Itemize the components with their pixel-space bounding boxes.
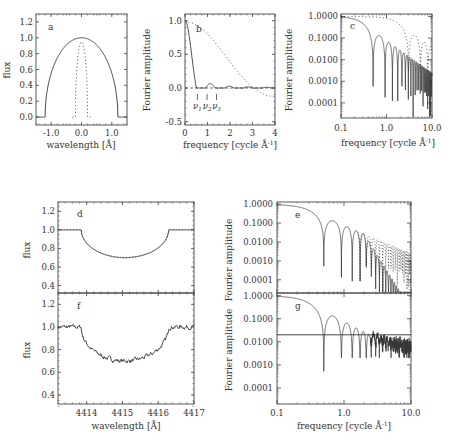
panel-b-y-tick-label: -0.5 [166, 117, 182, 127]
panel-b-y-tick-label: 0.5 [168, 49, 182, 59]
panel-c-broad-transform [341, 17, 432, 117]
panel-f-xlabel: wavelength [Å] [91, 420, 160, 431]
panel-e-letter: e [295, 210, 300, 220]
panel-c-xlabel: frequency [cycle Å-1] [341, 137, 435, 149]
panel-a-ylabel: flux [2, 62, 12, 79]
panel-c-ylabel: Fourier amplitude [284, 29, 294, 112]
panel-a-x-tick-label: 1.0 [105, 128, 119, 138]
panel-a-y-tick-label: 0.4 [19, 80, 33, 90]
panel-f-y-tick-label: 0.8 [41, 345, 55, 355]
panel-b-y-tick-label: 0.0 [168, 83, 182, 93]
panel-g-y-tick-label: 0.1000 [243, 314, 273, 324]
panel-f-x-tick-label: 4417 [183, 408, 205, 418]
panel-f-y-tick-label: 0.6 [41, 367, 55, 377]
panel-e-ylabel: Fourier amplitude [224, 219, 234, 302]
panel-d-model-profile [58, 230, 194, 258]
panel-f-x-tick-label: 4415 [112, 408, 134, 418]
panel-f-x-tick-label: 4414 [76, 408, 98, 418]
panel-c-letter: c [350, 21, 355, 31]
panel-a-broad-profile [36, 38, 127, 117]
panel-e-y-tick-label: 0.0010 [243, 256, 273, 266]
panel-d-ylabel: flux [22, 242, 32, 259]
panel-e-y-tick-label: 0.0100 [243, 237, 273, 247]
panel-a-narrow-profile [72, 42, 90, 117]
panel-g-y-tick-label: 0.0100 [243, 337, 273, 347]
panel-g-y-tick-label: 0.0001 [243, 383, 273, 393]
panel-d-y-tick-label: 1.2 [41, 206, 55, 216]
panel-b-x-tick-label: 3 [250, 128, 255, 138]
panel-c-x-tick-label: 10.0 [423, 123, 442, 133]
panel-c-y-tick-label: 0.0001 [308, 98, 338, 108]
panel-b-y-tick-label: 1.0 [168, 16, 182, 26]
panel-g-x-tick-label: 0.1 [270, 408, 284, 418]
figure-canvas: -1.00.01.00.00.20.40.60.81.01.2wavelengt… [0, 0, 449, 440]
panel-b-letter: b [196, 24, 202, 34]
panel-b-x-tick-label: 1 [205, 128, 210, 138]
panel-c-y-tick-label: 0.0010 [308, 76, 338, 86]
panel-c-y-tick-label: 0.1000 [308, 33, 338, 43]
panel-e-y-tick-label: 0.1000 [243, 218, 273, 228]
panel-a-letter: a [48, 22, 54, 32]
panel-a-xlabel: wavelength [Å] [46, 139, 115, 150]
panel-g-xlabel: frequency [cycle Å-1] [297, 420, 391, 432]
panel-d-y-tick-label: 1.0 [41, 225, 55, 235]
panel-a-x-tick-label: 0.0 [75, 128, 89, 138]
panel-d-y-tick-label: 0.4 [41, 281, 55, 291]
panel-g-y-tick-label: 1.0000 [243, 291, 273, 301]
panel-d-letter: d [77, 209, 83, 219]
panel-e-y-tick-label: 0.0001 [243, 275, 273, 285]
panel-a-y-tick-label: 0.2 [19, 96, 33, 106]
panel-c-x-tick-label: 1.0 [380, 123, 394, 133]
panel-b-xlabel: frequency [cycle Å-1] [183, 139, 277, 151]
panel-a-y-tick-label: 0.0 [19, 112, 33, 122]
panel-g-y-tick-label: 0.0010 [243, 360, 273, 370]
panel-a-y-tick-label: 1.2 [19, 17, 33, 27]
panel-f-y-tick-label: 1.2 [41, 299, 55, 309]
panel-f-letter: f [77, 301, 81, 311]
panel-g-x-tick-label: 1.0 [337, 408, 351, 418]
panel-f-noisy-profile [58, 324, 194, 363]
panel-e-y-tick-label: 1.0000 [243, 199, 273, 209]
panel-g-x-tick-label: 10.0 [402, 408, 421, 418]
panel-f-ylabel: flux [22, 342, 32, 359]
panel-f-y-tick-label: 0.4 [41, 390, 55, 400]
panel-d-y-tick-label: 0.8 [41, 243, 55, 253]
panel-d-y-tick-label: 0.6 [41, 262, 55, 272]
panel-g-letter: g [295, 301, 301, 311]
panel-b-x-tick-label: 4 [272, 128, 277, 138]
panel-a-y-tick-label: 0.8 [19, 49, 33, 59]
nu-label: ν1 [193, 101, 202, 112]
panel-c-y-tick-label: 0.0100 [308, 55, 338, 65]
panel-c-y-tick-label: 1.0000 [308, 11, 338, 21]
panel-a-x-tick-label: -1.0 [43, 128, 59, 138]
panel-a-y-tick-label: 1.0 [19, 33, 33, 43]
panel-g-ylabel: Fourier amplitude [224, 309, 234, 392]
panel-c-x-tick-label: 0.1 [334, 123, 348, 133]
panel-f-y-tick-label: 1.0 [41, 322, 55, 332]
panel-d-fit-profile [58, 229, 194, 257]
panel-f-x-tick-label: 4416 [147, 408, 169, 418]
nu-label: ν2 [203, 101, 212, 112]
panel-b-x-tick-label: 0 [182, 128, 187, 138]
panel-a-y-tick-label: 0.6 [19, 65, 33, 75]
panel-b-ylabel: Fourier amplitude [142, 29, 152, 112]
panel-b-x-tick-label: 2 [227, 128, 232, 138]
panel-e-dotted-transform [358, 232, 411, 292]
nu-label: ν3 [212, 101, 221, 112]
